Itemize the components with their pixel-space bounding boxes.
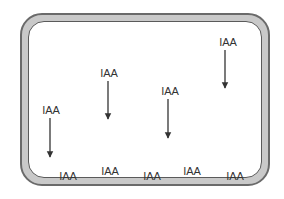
- iaa-label-bottom-1: IAA: [59, 171, 77, 182]
- iaa-label-bottom-5: IAA: [226, 171, 244, 182]
- iaa-label-center-right: IAA: [161, 86, 179, 97]
- iaa-label-bottom-3: IAA: [143, 171, 161, 182]
- iaa-label-top-right: IAA: [219, 37, 237, 48]
- iaa-label-bottom-2: IAA: [101, 166, 119, 177]
- iaa-label-upper-middle: IAA: [100, 68, 118, 79]
- iaa-label-bottom-4: IAA: [183, 166, 201, 177]
- iaa-label-left: IAA: [42, 105, 60, 116]
